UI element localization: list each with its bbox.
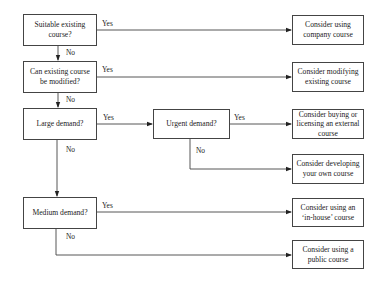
edge-label-no: No xyxy=(66,146,75,154)
outcome-label: Consider using an ‘in-house’ course xyxy=(296,203,360,222)
edge-label-no: No xyxy=(66,49,75,57)
edge-label-yes: Yes xyxy=(103,114,114,122)
edge-label-no: No xyxy=(66,96,75,104)
edge-label-yes: Yes xyxy=(102,202,113,210)
edge-label-yes: Yes xyxy=(234,114,245,122)
edge-label-yes: Yes xyxy=(102,20,113,28)
decision-label: Urgent demand? xyxy=(166,119,216,129)
decision-medium-demand: Medium demand? xyxy=(23,197,97,229)
outcome-label: Consider modifying existing course xyxy=(296,67,360,86)
outcome-buy-license-course: Consider buying or licensing an external… xyxy=(292,109,364,139)
outcome-public-course: Consider using a public course xyxy=(292,240,364,269)
outcome-inhouse-course: Consider using an ‘in-house’ course xyxy=(292,198,364,227)
decision-urgent-demand: Urgent demand? xyxy=(153,109,230,139)
decision-label: Medium demand? xyxy=(32,208,87,218)
outcome-label: Consider buying or licensing an external… xyxy=(296,110,360,139)
outcome-label: Consider developing your own course xyxy=(296,159,360,178)
outcome-company-course: Consider using company course xyxy=(292,15,364,45)
edge-label-no: No xyxy=(196,147,205,155)
decision-large-demand: Large demand? xyxy=(23,108,97,140)
outcome-label: Consider using company course xyxy=(296,20,360,39)
decision-label: Can existing course be modified? xyxy=(27,67,93,86)
edge-label-yes: Yes xyxy=(102,66,113,74)
outcome-modify-course: Consider modifying existing course xyxy=(292,62,364,92)
decision-suitable-existing-course: Suitable existing course? xyxy=(23,14,97,46)
decision-can-be-modified: Can existing course be modified? xyxy=(23,61,97,93)
decision-label: Suitable existing course? xyxy=(27,20,93,39)
outcome-develop-own-course: Consider developing your own course xyxy=(292,154,364,184)
edge-label-no: No xyxy=(66,233,75,241)
decision-label: Large demand? xyxy=(37,119,84,129)
outcome-label: Consider using a public course xyxy=(296,245,360,264)
